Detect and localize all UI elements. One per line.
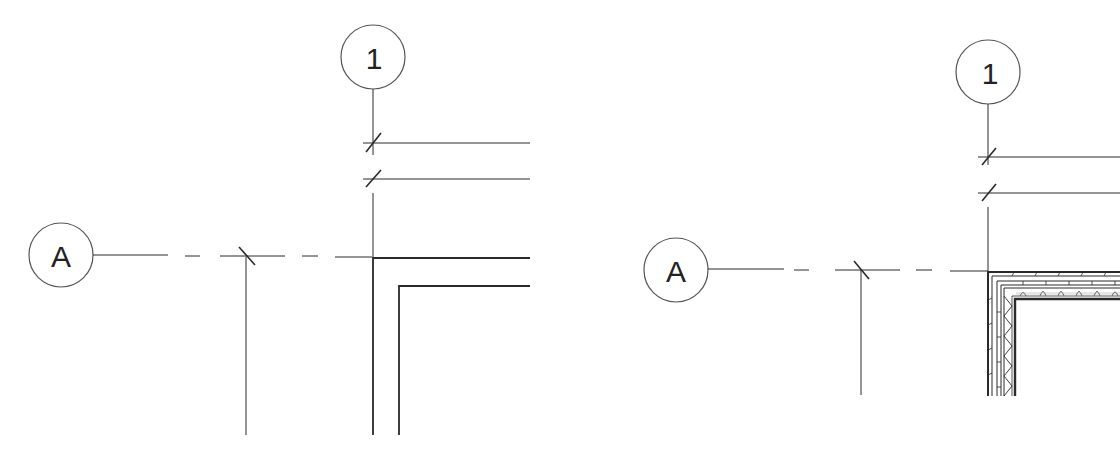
wall-layered[interactable] [988, 272, 1120, 396]
grid-bubble-1-right[interactable]: 1 [956, 40, 1020, 104]
grid-label-1-right: 1 [982, 57, 999, 90]
right-plan: 1 A [644, 40, 1120, 396]
grid-bubble-A[interactable]: A [29, 223, 93, 287]
grid-bubble-1[interactable]: 1 [341, 25, 405, 89]
cladding-hatch [988, 272, 1115, 387]
left-plan: 1 A [29, 25, 530, 435]
grid-label-1: 1 [366, 42, 383, 75]
insulation-hatch [1004, 296, 1012, 396]
wall-simple[interactable] [373, 258, 530, 435]
grid-bubble-A-right[interactable]: A [644, 238, 708, 302]
drawing-canvas: 1 A 1 [0, 0, 1120, 452]
grid-label-A-right: A [666, 255, 686, 288]
grid-label-A: A [51, 240, 71, 273]
